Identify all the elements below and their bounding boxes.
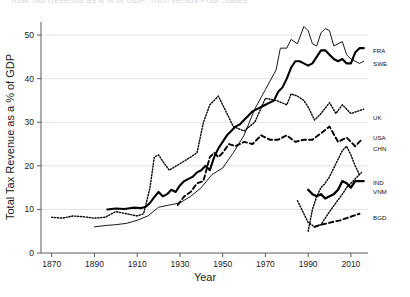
legend-label-uk: UK [373, 114, 382, 121]
x-tick-label-2010: 2010 [341, 259, 360, 269]
axis-lines [41, 22, 368, 253]
x-tick-label-1970: 1970 [256, 259, 275, 269]
y-tick-label-0: 0 [29, 248, 34, 258]
legend-label-swe: SWE [373, 60, 387, 67]
legend-label-bgd: BGD [373, 214, 387, 221]
y-tick-label-50: 50 [25, 30, 35, 40]
y-tick-label-20: 20 [25, 161, 35, 171]
x-axis-ticks: 18701890191019301950197019902010 [42, 253, 360, 269]
y-axis-ticks: 01020304050 [25, 30, 41, 258]
legend-label-usa: USA [373, 134, 387, 141]
x-tick-label-1890: 1890 [85, 259, 104, 269]
series-line-chn [297, 172, 361, 226]
legend-label-vnm: VNM [373, 188, 387, 195]
series-line-bgd [315, 214, 360, 227]
legend-label-chn: CHN [373, 145, 386, 152]
legend-group: FRASWEUKUSACHNINDVNMBGD [373, 47, 387, 222]
series-line-vnm [308, 146, 359, 231]
chart-canvas: 01020304050 1870189019101930195019701990… [0, 0, 410, 297]
y-tick-label-10: 10 [25, 204, 35, 214]
y-tick-label-40: 40 [25, 74, 35, 84]
series-line-fra [107, 48, 363, 209]
x-tick-label-1930: 1930 [170, 259, 189, 269]
y-tick-label-30: 30 [25, 117, 35, 127]
x-axis-label: Year [194, 271, 217, 283]
data-series-group [52, 26, 364, 231]
x-tick-label-1910: 1910 [128, 259, 147, 269]
y-axis-label: Total Tax Revenue as a % of GDP [4, 54, 16, 220]
x-tick-label-1990: 1990 [299, 259, 318, 269]
legend-label-ind: IND [373, 179, 384, 186]
chart-figure: Total Tax Revenue as a % of GDP: Rich ve… [0, 0, 410, 297]
series-line-uk [52, 94, 364, 218]
x-tick-label-1950: 1950 [213, 259, 232, 269]
legend-label-fra: FRA [373, 47, 386, 54]
x-tick-label-1870: 1870 [42, 259, 61, 269]
